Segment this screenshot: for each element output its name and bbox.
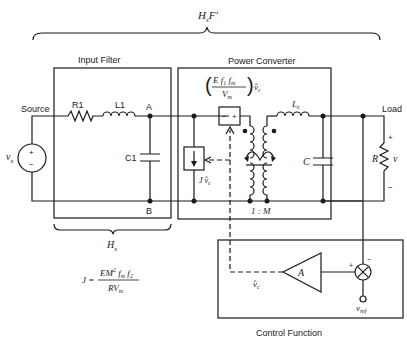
vs-label: vs bbox=[6, 151, 13, 165]
amp-label: A bbox=[297, 267, 305, 278]
hs-label: Hs bbox=[106, 239, 117, 253]
load-label: Load bbox=[382, 104, 402, 114]
equation-lhs: J = bbox=[82, 275, 94, 285]
le-label: Le bbox=[291, 99, 300, 110]
control-function-box bbox=[218, 240, 403, 318]
equation-numerator: EM2 fm f2 bbox=[99, 267, 133, 279]
primary-top-wire bbox=[240, 116, 250, 126]
input-filter-box bbox=[54, 68, 171, 218]
vref-label: vref bbox=[356, 303, 368, 314]
secondary-polarity-dot bbox=[272, 129, 277, 134]
junction-dot bbox=[321, 199, 326, 204]
node-a-dot bbox=[148, 114, 153, 119]
source-bottom-wire bbox=[32, 172, 363, 201]
c-label: C bbox=[303, 156, 310, 167]
junction-dot bbox=[361, 114, 366, 119]
control-function-title: Control Function bbox=[256, 328, 322, 338]
source-plus: + bbox=[29, 148, 34, 157]
gen-paren-right: ) bbox=[247, 74, 254, 96]
l1-label: L1 bbox=[115, 100, 125, 110]
hs-brace bbox=[54, 224, 171, 234]
load-resistor bbox=[323, 143, 388, 201]
load-plus: + bbox=[388, 133, 393, 142]
r1-label: R1 bbox=[72, 100, 84, 110]
c1-capacitor bbox=[140, 116, 160, 201]
gen-numerator: E f1 fm bbox=[212, 75, 236, 86]
c-capacitor bbox=[313, 116, 333, 201]
le-inductor bbox=[277, 112, 323, 116]
summing-cross bbox=[357, 266, 368, 277]
transformer-secondary bbox=[263, 116, 267, 201]
junction-dot bbox=[192, 199, 197, 204]
sum-minus: − bbox=[367, 256, 371, 263]
top-brace-label: HsF′ bbox=[197, 9, 218, 24]
c1-label: C1 bbox=[125, 153, 137, 163]
output-top-wire bbox=[323, 116, 384, 143]
junction-dot bbox=[321, 114, 326, 119]
gen-vc: v̂c bbox=[254, 82, 261, 93]
gen-denominator: Vm bbox=[222, 89, 233, 100]
v-label: v bbox=[393, 153, 398, 164]
vc-hat-label: v̂c bbox=[253, 279, 260, 290]
circuit-diagram: HsF′ Input Filter Power Converter Contro… bbox=[0, 0, 407, 345]
turns-ratio-label: 1 : M bbox=[251, 206, 271, 216]
src-box-plus: + bbox=[232, 112, 237, 121]
input-filter-title: Input Filter bbox=[78, 55, 121, 65]
source-label: Source bbox=[21, 104, 50, 114]
junction-dot bbox=[192, 114, 197, 119]
power-converter-title: Power Converter bbox=[228, 56, 296, 66]
junction-dot bbox=[265, 199, 270, 204]
src-box-minus: − bbox=[222, 112, 227, 121]
gen-paren-left: ( bbox=[205, 74, 212, 96]
sum-plus: + bbox=[349, 262, 353, 269]
top-brace bbox=[33, 27, 380, 40]
junction-dot bbox=[248, 199, 253, 204]
vref-terminal bbox=[360, 296, 366, 302]
node-b-dot bbox=[148, 199, 153, 204]
source-top-wire bbox=[32, 116, 64, 144]
l1-inductor bbox=[103, 112, 150, 116]
primary-polarity-dot bbox=[243, 129, 248, 134]
r-label: R bbox=[371, 153, 378, 164]
source-minus: − bbox=[29, 160, 34, 169]
transformer-primary bbox=[250, 126, 254, 201]
node-b-label: B bbox=[146, 206, 152, 216]
r1-resistor bbox=[64, 111, 103, 121]
current-arrow-head bbox=[191, 161, 197, 167]
load-minus: − bbox=[388, 183, 393, 192]
equation-denominator: RVm bbox=[107, 283, 124, 294]
j-vc-label: J v̂c bbox=[199, 176, 211, 186]
node-a-label: A bbox=[146, 102, 152, 112]
variable-turns-arc bbox=[246, 152, 274, 160]
